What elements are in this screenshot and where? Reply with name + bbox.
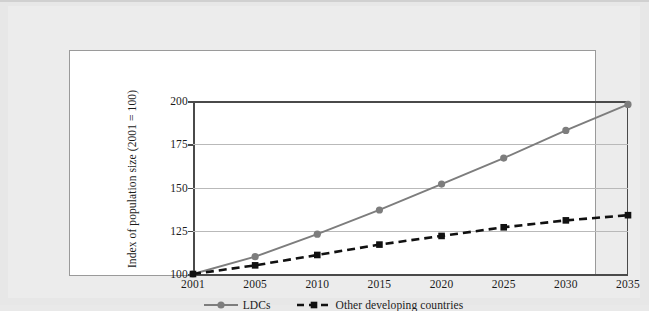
data-point-0-2005 [252,253,259,260]
legend-entry-0: LDCs [204,299,271,311]
data-point-1-2030 [563,217,570,224]
data-point-1-2035 [625,212,632,219]
y-tick-label-200: 200 [170,95,188,107]
data-point-0-2030 [562,127,569,134]
data-point-0-2015 [376,206,383,213]
x-tick-label-2010: 2010 [305,278,329,290]
x-tick-label-2005: 2005 [243,278,267,290]
y-tick-label-150: 150 [170,182,188,194]
chart-panel: Index of population size (2001 = 100) 10… [69,50,596,276]
data-point-0-2010 [314,231,321,238]
data-point-1-2025 [500,224,507,231]
legend-key-circle-icon [204,299,238,311]
x-tick-label-2001: 2001 [181,278,205,290]
data-point-0-2035 [624,101,631,108]
x-tick-label-2025: 2025 [492,278,516,290]
data-point-1-2005 [252,262,259,269]
y-axis-title: Index of population size (2001 = 100) [126,0,146,95]
series-canvas [193,101,628,274]
x-tick-label-2020: 2020 [430,278,454,290]
x-tick-label-2035: 2035 [616,278,640,290]
y-tick-label-175: 175 [170,138,188,150]
legend-label-1: Other developing countries [336,299,464,311]
x-tick-label-2030: 2030 [554,278,578,290]
data-point-0-2020 [438,180,445,187]
y-axis-tick-labels: 100125150175200 [158,101,188,274]
figure-outer-frame: Index of population size (2001 = 100) 10… [8,6,640,298]
plot-area [193,101,628,274]
y-tick-label-125: 125 [170,225,188,237]
legend-label-0: LDCs [243,299,271,311]
top-rule-divider [0,0,649,2]
data-point-1-2001 [190,271,197,278]
chart-legend: LDCsOther developing countries [70,299,597,311]
gridline-100 [193,274,628,276]
data-point-0-2025 [500,154,507,161]
legend-entry-1: Other developing countries [297,299,464,311]
legend-key-square-icon [297,299,331,311]
data-point-1-2015 [376,241,383,248]
data-point-1-2020 [438,233,445,240]
x-tick-label-2015: 2015 [368,278,392,290]
y-axis-title-label: Index of population size (2001 = 100) [126,89,138,269]
x-axis-tick-labels: 20012005201020152020202520302035 [193,278,628,296]
data-point-1-2010 [314,252,321,259]
